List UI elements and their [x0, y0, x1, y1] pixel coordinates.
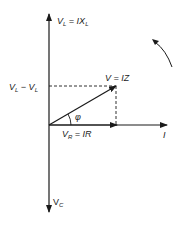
phase-angle-label: φ — [75, 112, 81, 122]
phasor-diagram: VL = IXL VL − VL V = IZ φ VR = IR I VC — [0, 0, 181, 225]
net-reactive-voltage-label: VL − VL — [9, 82, 38, 93]
rotation-arrow-icon — [155, 42, 172, 67]
capacitive-voltage-label: VC — [53, 197, 64, 208]
current-axis-label: I — [163, 130, 166, 140]
inductive-voltage-label: VL = IXL — [57, 16, 88, 27]
phase-angle-arc — [68, 114, 71, 125]
resultant-voltage-label: V = IZ — [105, 73, 130, 83]
resistive-voltage-label: VR = IR — [62, 129, 92, 140]
resultant-voltage-phasor — [49, 86, 116, 125]
